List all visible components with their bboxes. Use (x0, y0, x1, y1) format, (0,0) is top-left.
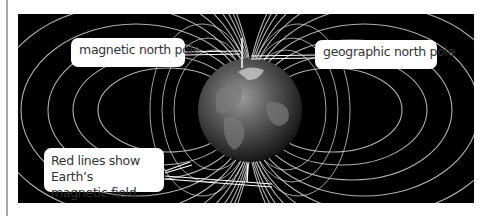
caption-line-1: Red lines show Earth’s (51, 153, 157, 185)
label-field-caption: Red lines show Earth’s magnetic field. (44, 148, 164, 192)
magnetic-field-illustration: magnetic north pole geographic north pol… (18, 14, 474, 203)
side-rule (6, 0, 8, 216)
label-text: magnetic north pole (79, 42, 200, 57)
label-geographic-north-pole: geographic north pole (315, 40, 437, 69)
label-magnetic-north-pole: magnetic north pole (71, 38, 185, 67)
label-text: geographic north pole (323, 44, 455, 59)
caption-line-2: magnetic field. (51, 185, 157, 201)
